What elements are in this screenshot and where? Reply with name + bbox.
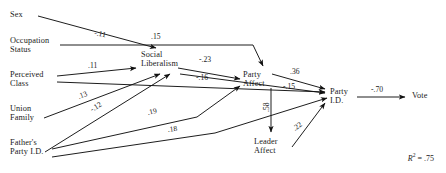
node-vote: Vote [412, 91, 427, 100]
coef-fathers-party-id-to-party-id: .18 [167, 124, 178, 134]
edge-lines [38, 16, 405, 157]
path-diagram-canvas: -.11 .15 .11 .13 -.12 .19 .18 -.23 -.16 … [0, 0, 446, 173]
coef-perceived-class-to-party-id: -.15 [283, 82, 295, 91]
node-occupation-status: Occupation Status [10, 36, 49, 55]
coef-sex-to-social-liberalism: -.11 [94, 28, 107, 39]
path-diagram: -.11 .15 .11 .13 -.12 .19 .18 -.23 -.16 … [0, 0, 446, 173]
coef-social-liberalism-to-party-id: -.16 [196, 73, 208, 82]
coef-occupation-status-to-party-affect: .15 [151, 32, 161, 41]
r-squared-value: .75 [424, 154, 434, 163]
node-party-affect: Party Affect [243, 70, 265, 89]
edge-union-family-to-social-liberalism [44, 74, 160, 118]
coef-social-liberalism-to-party-affect: -.23 [199, 55, 211, 64]
coef-union-family-to-social-liberalism: .13 [76, 89, 88, 101]
coef-perceived-class-to-social-liberalism: .11 [88, 61, 97, 70]
coef-party-affect-to-leader-affect: .58 [262, 102, 271, 112]
node-perceived-class: Perceived Class [10, 70, 44, 89]
r-squared-statistic: R2 = .75 [408, 152, 434, 163]
node-fathers-party-id: Father's Party I.D. [10, 138, 44, 157]
node-social-liberalism: Social Liberalism [141, 50, 178, 69]
node-sex: Sex [10, 10, 23, 19]
coef-fathers-party-id-to-party-affect: .19 [147, 106, 158, 117]
node-party-id: Party I.D. [330, 87, 348, 106]
edge-coefficient-labels: -.11 .15 .11 .13 -.12 .19 .18 -.23 -.16 … [76, 28, 383, 134]
coef-leader-affect-to-party-id: .22 [291, 120, 304, 133]
r-squared-equals: = [415, 154, 424, 163]
coef-party-id-to-vote: -.70 [371, 85, 383, 94]
coef-party-affect-to-party-id: .36 [290, 67, 300, 76]
coef-fathers-party-id-to-social-liberalism: -.12 [88, 100, 103, 114]
node-union-family: Union Family [10, 104, 34, 123]
node-leader-affect: Leader Affect [254, 137, 278, 156]
